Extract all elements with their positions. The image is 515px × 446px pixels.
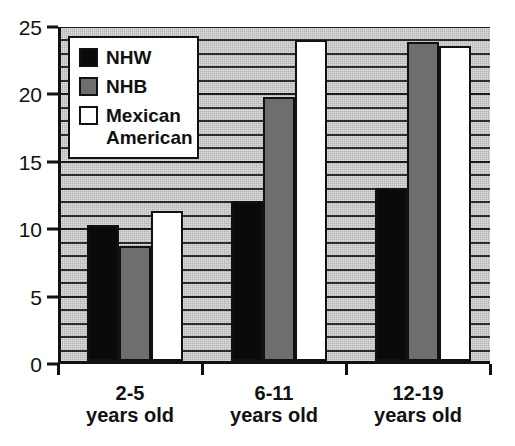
y-axis-tick-label: 0 xyxy=(8,354,42,375)
y-axis-tick-mark xyxy=(47,228,58,231)
bar-chart: 0510152025 2-5 years old6-11 years old12… xyxy=(0,0,515,446)
y-axis-tick-mark xyxy=(47,295,58,298)
x-axis-group-label-3: 12-19 years old xyxy=(346,382,490,427)
y-axis-tick-mark xyxy=(47,160,58,163)
y-axis-tick-label: 15 xyxy=(8,151,42,172)
bar-nhw-group-3 xyxy=(375,188,407,361)
y-axis-tick-label: 25 xyxy=(8,17,42,38)
legend-swatch-icon-nhb xyxy=(79,77,98,96)
x-axis-tick-mark xyxy=(57,364,60,375)
bar-nhw-group-2 xyxy=(231,201,263,361)
y-axis-tick-label: 5 xyxy=(8,286,42,307)
legend-label-mexican-american: Mexican American xyxy=(106,105,193,149)
x-axis-tick-mark xyxy=(201,364,204,375)
x-axis-group-label-2: 6-11 years old xyxy=(202,382,346,427)
y-axis-tick-label: 20 xyxy=(8,84,42,105)
legend: NHW NHB Mexican American xyxy=(68,36,199,159)
gridline-major xyxy=(61,27,490,28)
bar-nhb-group-2 xyxy=(263,97,295,361)
legend-label-nhw: NHW xyxy=(106,47,151,69)
legend-swatch-icon-nhw xyxy=(79,48,98,67)
y-axis-tick-mark xyxy=(47,26,58,29)
legend-item-nhb: NHB xyxy=(79,76,189,98)
legend-swatch-icon-mexican-american xyxy=(79,106,98,125)
bar-nhw-group-1 xyxy=(87,225,119,361)
bar-mexican-american-group-3 xyxy=(439,46,471,361)
x-axis-tick-mark xyxy=(489,364,492,375)
bar-mexican-american-group-1 xyxy=(151,211,183,361)
x-axis-tick-mark xyxy=(345,364,348,375)
x-axis-group-label-1: 2-5 years old xyxy=(58,382,202,427)
y-axis-tick-label: 10 xyxy=(8,219,42,240)
bar-mexican-american-group-2 xyxy=(295,40,327,361)
legend-item-mexican-american: Mexican American xyxy=(79,105,189,149)
bar-nhb-group-3 xyxy=(407,42,439,361)
legend-item-nhw: NHW xyxy=(79,47,189,69)
y-axis-tick-mark xyxy=(47,93,58,96)
legend-label-nhb: NHB xyxy=(106,76,147,98)
bar-nhb-group-1 xyxy=(119,246,151,361)
